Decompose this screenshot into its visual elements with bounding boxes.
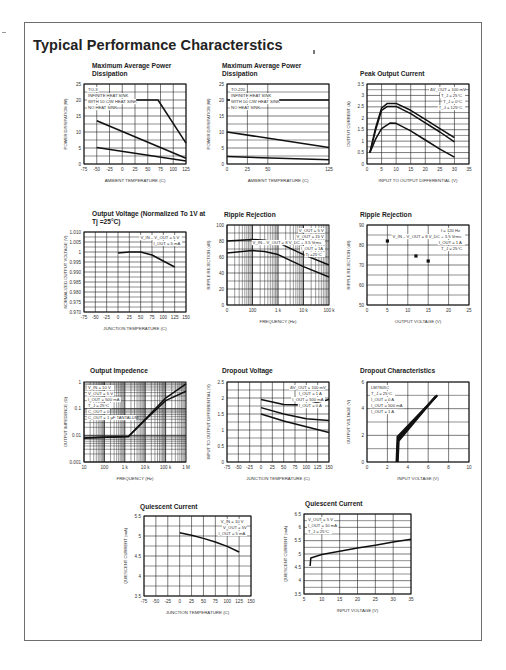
x-axis-label: AMBIENT TEMPERATURE (C) (248, 178, 309, 183)
svg-text:25: 25 (245, 167, 251, 172)
svg-text:0: 0 (366, 308, 369, 313)
svg-text:I_OUT = 500 mA: I_OUT = 500 mA (371, 403, 403, 408)
svg-text:125: 125 (235, 599, 243, 604)
svg-text:I_OUT = 1 A: I_OUT = 1 A (439, 240, 462, 245)
chart-quiescent-current-temp: -75-50-2502550751001251503.544.555.5JUNC… (122, 514, 257, 624)
svg-text:5: 5 (221, 146, 224, 151)
svg-text:-25: -25 (164, 599, 171, 604)
svg-text:3.5: 3.5 (135, 594, 142, 599)
svg-text:100 k: 100 k (160, 465, 172, 470)
svg-text:2.5: 2.5 (358, 104, 365, 109)
svg-text:0.001: 0.001 (70, 460, 82, 465)
y-axis-label: OUTPUT VOLTAGE (V) (346, 399, 351, 444)
svg-text:1.5: 1.5 (358, 127, 365, 132)
svg-text:V_IN = 10 V: V_IN = 10 V (88, 385, 111, 390)
svg-text:5: 5 (380, 167, 383, 172)
svg-text:-75: -75 (81, 167, 88, 172)
svg-text:25: 25 (219, 82, 225, 87)
svg-text:25: 25 (373, 597, 379, 602)
svg-text:0: 0 (121, 167, 124, 172)
svg-text:60: 60 (359, 283, 365, 288)
svg-text:I_OUT = 0 A: I_OUT = 0 A (371, 397, 394, 402)
y-axis-label: OUTPUT CURRENT (A) (346, 101, 351, 147)
series-line (118, 252, 175, 267)
svg-text:1 k: 1 k (275, 308, 282, 313)
scan-speck (313, 50, 315, 54)
svg-text:5: 5 (138, 534, 141, 539)
svg-text:0: 0 (221, 460, 224, 465)
svg-text:50: 50 (201, 599, 207, 604)
svg-text:-25: -25 (103, 315, 110, 320)
svg-text:30: 30 (391, 597, 397, 602)
svg-text:100: 100 (159, 315, 167, 320)
svg-text:2: 2 (361, 116, 364, 121)
svg-text:0: 0 (221, 162, 224, 167)
svg-text:35: 35 (408, 597, 414, 602)
annotations: V_OUT = 5 VI_OUT = 10 mAT_J = 25°C (307, 517, 339, 534)
svg-text:5: 5 (78, 146, 81, 151)
svg-text:75: 75 (292, 465, 298, 470)
annotations: V_IN = 10 VV_OUT = 5VI_OUT = 5 mA (218, 519, 247, 536)
svg-text:T_J = 25°C: T_J = 25°C (441, 246, 462, 251)
chart-title-dropout-voltage: Dropout Voltage (222, 367, 273, 375)
svg-text:-75: -75 (141, 599, 148, 604)
svg-text:0: 0 (117, 315, 120, 320)
svg-text:150: 150 (182, 315, 190, 320)
svg-text:75: 75 (149, 315, 155, 320)
series-line (97, 147, 186, 161)
svg-text:0.980: 0.980 (70, 290, 82, 295)
svg-text:15: 15 (426, 308, 432, 313)
x-axis-label: AMBIENT TEMPERATURE (C) (105, 178, 166, 183)
svg-text:V_IN – V_OUT = 5 V: V_IN – V_OUT = 5 V (140, 235, 179, 240)
svg-text:100: 100 (249, 308, 257, 313)
y-axis-label: OUTPUT IMPEDENCE (Ω) (63, 396, 68, 447)
svg-text:6: 6 (298, 525, 301, 530)
svg-text:I_OUT = 5 mA: I_OUT = 5 mA (219, 531, 246, 536)
svg-text:10 k: 10 k (141, 465, 150, 470)
series-line (227, 157, 329, 160)
svg-text:0: 0 (366, 465, 369, 470)
svg-text:-50: -50 (235, 465, 242, 470)
svg-text:100: 100 (101, 465, 109, 470)
svg-text:10: 10 (466, 465, 472, 470)
svg-text:INFINITE HEAT SINK: INFINITE HEAT SINK (231, 93, 272, 98)
svg-text:I_OUT = 500 mA: I_OUT = 500 mA (88, 397, 120, 402)
svg-text:100 k: 100 k (323, 308, 335, 313)
svg-text:10: 10 (81, 465, 87, 470)
chart-output-impedance: 101001 k10 k100 k1 M0.0010.010.11FREQUEN… (62, 380, 192, 490)
chart-max-power-to3: -75-50-2502550751001250510152025AMBIENT … (62, 82, 192, 192)
svg-text:0.985: 0.985 (70, 280, 82, 285)
svg-text:25: 25 (76, 82, 82, 87)
svg-text:3.5: 3.5 (295, 592, 302, 597)
svg-text:NO HEAT SINK: NO HEAT SINK (88, 105, 117, 110)
svg-text:0: 0 (366, 167, 369, 172)
svg-text:T_J = 125°C: T_J = 125°C (439, 105, 462, 110)
svg-text:0: 0 (226, 167, 229, 172)
chart-title-output-impedance: Output Impedence (90, 367, 148, 375)
svg-text:1 M: 1 M (182, 465, 190, 470)
svg-text:2: 2 (221, 396, 224, 401)
svg-text:T_J = 25°C: T_J = 25°C (308, 529, 329, 534)
chart-title-max-power-to3: Maximum Average Power Dissipation (92, 62, 202, 78)
svg-text:75: 75 (158, 167, 164, 172)
svg-text:-50: -50 (93, 167, 100, 172)
svg-text:WITH 10 C/W HEAT SINK: WITH 10 C/W HEAT SINK (88, 99, 137, 104)
y-axis-label: QUIESCENT CURRENT (mA) (123, 527, 128, 584)
x-axis-label: FREQUENCY (Hz) (117, 476, 155, 481)
svg-text:0: 0 (226, 308, 229, 313)
svg-text:50: 50 (265, 167, 271, 172)
x-axis-label: INPUT VOLTAGE (V) (337, 608, 379, 613)
series-line (370, 123, 455, 157)
svg-text:1 k: 1 k (122, 465, 129, 470)
svg-text:5: 5 (386, 308, 389, 313)
y-axis-label: RIPPLE REJECTION (dB) (206, 240, 211, 289)
svg-text:f = 120 Hz: f = 120 Hz (441, 228, 460, 233)
svg-text:100: 100 (223, 599, 231, 604)
svg-text:T_J = 25°C: T_J = 25°C (441, 93, 462, 98)
svg-text:5.5: 5.5 (295, 538, 302, 543)
svg-text:1: 1 (221, 428, 224, 433)
svg-text:0.5: 0.5 (218, 444, 225, 449)
chart-output-voltage-normalized: -75-50-2502550751001251500.9700.9750.980… (62, 230, 192, 340)
x-axis-label: JUNCTION TEMPERATURE (C) (246, 476, 310, 481)
svg-text:50: 50 (145, 167, 151, 172)
